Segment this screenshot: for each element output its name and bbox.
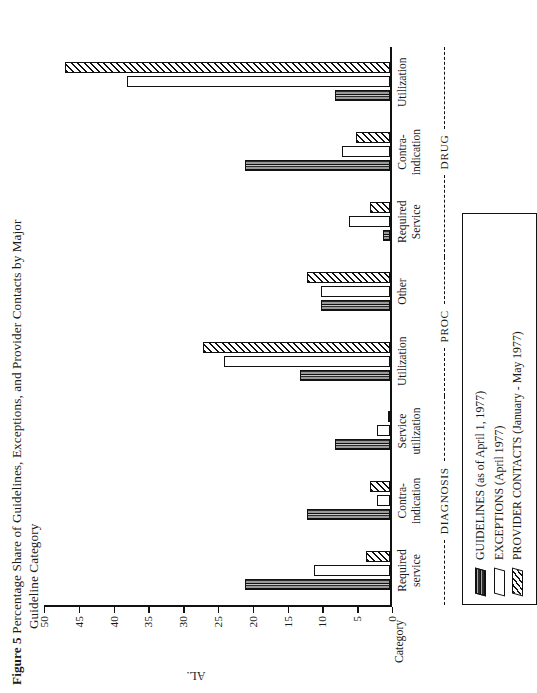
category-tick-label: Utilization: [396, 326, 423, 396]
group-band-dash-left: [444, 175, 445, 256]
category-tick-label: Other: [396, 257, 423, 327]
category-tick-label-line: Contra-: [396, 117, 410, 187]
value-tick-mark: [44, 607, 45, 613]
bar[interactable]: [314, 565, 390, 576]
bar[interactable]: [335, 439, 390, 450]
group-band-dash-right: [444, 47, 445, 128]
category-tick-label-line: indication: [410, 466, 424, 536]
value-tick-label: 50: [38, 616, 50, 627]
figure-title: Figure 5 Percentage Share of Guidelines,…: [8, 125, 43, 685]
bar[interactable]: [335, 90, 390, 101]
value-tick-label: 30: [177, 616, 189, 627]
category-tick-label-line: indication: [410, 117, 424, 187]
bar-group: [44, 256, 390, 326]
category-group-band: DRUG: [436, 47, 452, 256]
value-tick-mark: [322, 607, 323, 613]
value-tick-mark: [253, 607, 254, 613]
bar[interactable]: [307, 509, 390, 520]
bar-group: [44, 47, 390, 117]
category-baseline: [390, 47, 392, 607]
category-tick-label-line: Required: [396, 187, 410, 257]
value-tick-label: 45: [73, 616, 85, 627]
value-tick-mark: [183, 607, 184, 613]
category-tick-label-line: Required: [396, 536, 410, 606]
bar[interactable]: [65, 62, 391, 73]
category-tick-label: RequiredService: [396, 187, 423, 257]
bar[interactable]: [321, 286, 390, 297]
value-tick-mark: [114, 607, 115, 613]
bar[interactable]: [370, 481, 391, 492]
bar[interactable]: [342, 146, 390, 157]
category-tick-label-line: Other: [396, 257, 410, 327]
category-tick-label-line: utilization: [410, 396, 424, 466]
group-band-dash-right: [444, 396, 445, 461]
bar[interactable]: [245, 579, 390, 590]
value-tick-label: 10: [316, 616, 328, 627]
category-tick-label-line: Service: [410, 187, 424, 257]
bar[interactable]: [356, 132, 391, 143]
category-axis-title: Category: [392, 620, 407, 663]
legend-item[interactable]: EXCEPTIONS (April 1977): [492, 224, 507, 595]
bar[interactable]: [307, 272, 390, 283]
value-tick-label: 15: [282, 616, 294, 627]
category-tick-label-line: Utilization: [396, 47, 410, 117]
bar[interactable]: [245, 160, 390, 171]
bar-group: [44, 326, 390, 396]
group-band-dash-left: [444, 348, 445, 396]
value-tick-label: 35: [142, 616, 154, 627]
category-tick-label: Contra-indication: [396, 117, 423, 187]
value-tick-mark: [148, 607, 149, 613]
bar[interactable]: [349, 216, 391, 227]
category-tick-label-line: Contra-: [396, 466, 410, 536]
category-tick-label-line: Service: [396, 396, 410, 466]
category-tick-label: Utilization: [396, 47, 423, 117]
bar[interactable]: [377, 495, 391, 506]
bar-group: [44, 117, 390, 187]
bar[interactable]: [370, 202, 391, 213]
bar-group: [44, 466, 390, 536]
category-group-band: DIAGNOSIS: [436, 396, 452, 605]
value-tick-mark: [79, 607, 80, 613]
value-tick-mark: [392, 607, 393, 613]
category-group-band: PROC: [436, 257, 452, 397]
category-axis-labels: RequiredserviceContra-indicationServiceu…: [396, 47, 423, 605]
bar[interactable]: [383, 230, 390, 241]
value-tick-label: 20: [247, 616, 259, 627]
legend-item-label: EXCEPTIONS (April 1977): [492, 426, 507, 560]
legend-item[interactable]: GUIDELINES (as of April 1, 1977): [473, 224, 488, 595]
bar[interactable]: [127, 76, 390, 87]
bar[interactable]: [321, 300, 390, 311]
group-band-label: DIAGNOSIS: [438, 461, 450, 540]
legend-item-label: PROVIDER CONTACTS (January - May 1977): [510, 331, 525, 560]
bar[interactable]: [388, 411, 390, 422]
category-tick-label-line: Utilization: [396, 326, 410, 396]
value-tick-mark: [218, 607, 219, 613]
hollow-white-swatch: [494, 567, 505, 596]
bar-group: [44, 396, 390, 466]
value-tick-label: 40: [108, 616, 120, 627]
category-tick-label-line: service: [410, 536, 424, 606]
legend-box: GUIDELINES (as of April 1, 1977)EXCEPTIO…: [462, 213, 537, 605]
group-band-dash-right: [444, 257, 445, 305]
value-tick-label: 25: [212, 616, 224, 627]
bar[interactable]: [224, 356, 390, 367]
bar[interactable]: [366, 551, 390, 562]
legend-item[interactable]: PROVIDER CONTACTS (January - May 1977): [510, 224, 525, 595]
category-tick-label: Serviceutilization: [396, 396, 423, 466]
figure-title-line-1: Percentage Share of Guidelines, Exceptio…: [9, 220, 24, 634]
value-tick-label: 5: [351, 616, 363, 622]
value-axis-title: AL.: [187, 668, 206, 683]
bar-group: [44, 187, 390, 257]
value-tick-mark: [357, 607, 358, 613]
bar[interactable]: [300, 370, 390, 381]
group-band-dash-left: [444, 540, 445, 605]
bar[interactable]: [377, 425, 391, 436]
value-tick-mark: [288, 607, 289, 613]
group-band-label: PROC: [438, 304, 450, 348]
bar[interactable]: [203, 342, 390, 353]
category-tick-label: Requiredservice: [396, 536, 423, 606]
bar-series-container: [44, 47, 390, 605]
legend-item-label: GUIDELINES (as of April 1, 1977): [473, 391, 488, 560]
plot-area: 50454035302520151050: [44, 47, 392, 607]
